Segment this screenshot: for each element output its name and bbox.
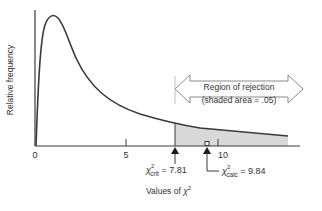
crit-arrow-head [171, 147, 179, 154]
calc-value-marker [205, 142, 209, 146]
x-axis-label: Values of χ2 [146, 185, 192, 196]
calc-label: χ2calc = 9.84 [221, 164, 266, 178]
calc-arrow-head [203, 147, 211, 154]
x-tick-label-5: 5 [123, 150, 128, 160]
x-tick-label-10: 10 [218, 150, 228, 160]
region-subtitle: (shaded area = .05) [202, 95, 277, 105]
crit-label: χ2crit = 7.81 [145, 163, 187, 177]
region-title: Region of rejection [204, 82, 275, 92]
x-tick-label-0: 0 [32, 150, 37, 160]
chi-square-chart: 0 5 10 Relative frequency Region of reje… [0, 0, 322, 211]
y-axis-label: Relative frequency [5, 44, 15, 115]
